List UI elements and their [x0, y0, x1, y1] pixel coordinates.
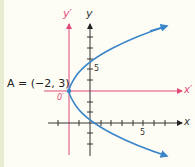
vertex-label: A = (−2, 3) — [7, 77, 70, 90]
x-tick-label-5: 5 — [140, 128, 145, 137]
y-axis-label: y — [86, 7, 93, 20]
y-prime-axis-label: y′ — [63, 7, 72, 20]
x-axis-label: x — [184, 116, 190, 127]
x-axis — [48, 120, 182, 126]
y-axis — [87, 24, 93, 156]
y-tick-label-5: 5 — [94, 64, 99, 73]
origin-prime-label: 0′ — [57, 93, 64, 102]
x-prime-axis-label: x′ — [184, 84, 192, 95]
